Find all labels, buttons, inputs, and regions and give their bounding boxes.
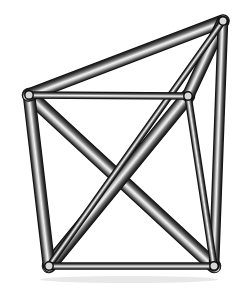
- strut-layer: [29, 21, 223, 266]
- joint-n-top-left: [25, 91, 33, 99]
- truss-render-canvas: 3D Truss Structure Shaded cylindrical st…: [0, 0, 239, 288]
- joint-circle-icon: [25, 91, 33, 99]
- joint-n-top-right: [219, 17, 227, 25]
- joint-circle-icon: [210, 262, 218, 270]
- joint-n-bottom-right: [210, 262, 218, 270]
- truss-svg: [0, 0, 239, 288]
- strut-top-chord: [29, 95, 188, 96]
- joint-circle-icon: [219, 17, 227, 25]
- shadow-layer: [40, 276, 218, 283]
- strut-right-post: [214, 21, 223, 266]
- joint-circle-icon: [45, 262, 53, 270]
- joint-n-mid-right: [184, 92, 192, 100]
- joint-n-bottom-left: [45, 262, 53, 270]
- joint-circle-icon: [184, 92, 192, 100]
- ground-shadow: [40, 276, 218, 283]
